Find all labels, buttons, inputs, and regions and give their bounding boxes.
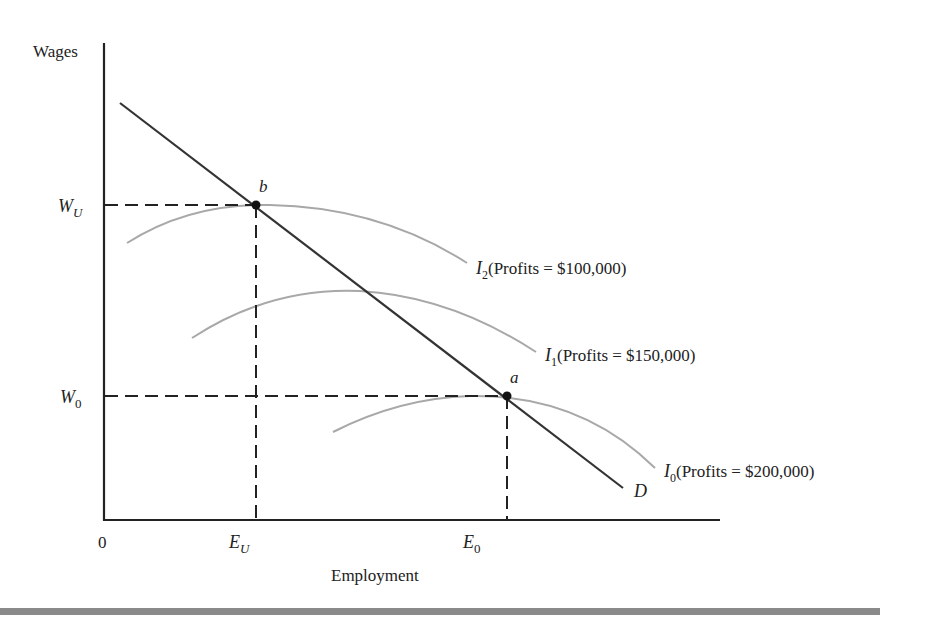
curve-label-i1: I1(Profits = $150,000) bbox=[544, 345, 696, 369]
point-a bbox=[503, 392, 512, 401]
isoprofit-curve-i0 bbox=[333, 396, 655, 468]
tick-label-eu: EU bbox=[228, 532, 251, 556]
point-b bbox=[252, 201, 261, 210]
curve-label-i0: I0(Profits = $200,000) bbox=[663, 461, 815, 485]
point-a-label: a bbox=[510, 368, 519, 387]
isoprofit-curve-i1 bbox=[192, 291, 536, 352]
demand-curve bbox=[120, 103, 623, 488]
y-axis-label: Wages bbox=[33, 42, 78, 61]
point-b-label: b bbox=[259, 177, 268, 196]
curve-label-i2: I2(Profits = $100,000) bbox=[475, 258, 627, 282]
tick-label-wu: WU bbox=[58, 196, 84, 220]
origin-label: 0 bbox=[98, 533, 107, 552]
isoprofit-curve-i2 bbox=[127, 205, 467, 263]
tick-label-w0: W0 bbox=[60, 387, 82, 411]
demand-label: D bbox=[633, 481, 647, 501]
x-axis-label: Employment bbox=[331, 566, 419, 585]
tick-label-e0: E0 bbox=[462, 532, 481, 556]
labor-market-diagram: Wages Employment 0 WU W0 EU E0 b a D I2(… bbox=[0, 0, 926, 621]
bottom-divider-bar bbox=[0, 608, 880, 615]
